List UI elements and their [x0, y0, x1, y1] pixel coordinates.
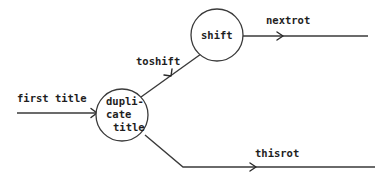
- node-text-line-3: title: [113, 121, 145, 133]
- edge-first-title: first title: [17, 92, 97, 118]
- edge-nextrot: nextrot: [243, 14, 368, 40]
- edge-thisrot: thisrot: [145, 135, 375, 171]
- edge-label-thisrot: thisrot: [255, 147, 299, 159]
- edge-label-first-title: first title: [17, 92, 87, 104]
- edge-toshift: toshift: [136, 54, 201, 97]
- node-text-line-2: cate: [106, 108, 131, 120]
- node-text-line-1: dupli-: [106, 95, 144, 107]
- node-shift: shift: [191, 9, 243, 61]
- node-text-shift: shift: [201, 29, 233, 41]
- node-duplicate-title: dupli- cate title: [96, 89, 148, 141]
- edge-label-toshift: toshift: [136, 55, 180, 67]
- edge-label-nextrot: nextrot: [266, 14, 310, 26]
- arrow-icon: [164, 69, 172, 76]
- data-flow-diagram: first title toshift nextrot thisrot dupl…: [0, 0, 392, 180]
